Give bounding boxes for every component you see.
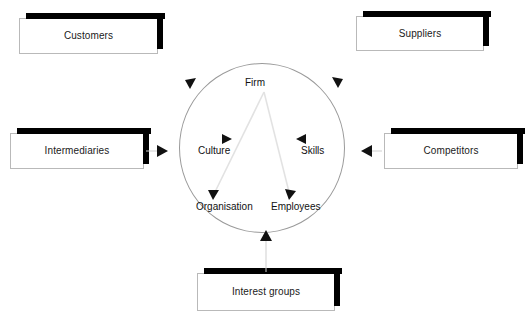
arrowhead-intermediaries-to-firm: [157, 145, 168, 157]
box-competitors-label: Competitors: [423, 146, 478, 156]
box-shadow-top: [26, 13, 165, 19]
box-shadow-right: [334, 268, 340, 306]
arrowhead-competitors-to-firm: [361, 145, 372, 157]
node-firm: Firm: [245, 78, 265, 88]
node-organisation: Organisation: [196, 202, 253, 212]
box-shadow-right: [483, 11, 489, 46]
box-shadow-top: [363, 11, 491, 17]
box-suppliers-label: Suppliers: [399, 29, 442, 39]
box-shadow-right: [143, 128, 149, 164]
box-shadow-right: [517, 128, 523, 164]
box-suppliers[interactable]: Suppliers: [356, 16, 484, 51]
node-culture: Culture: [198, 146, 230, 156]
box-customers-label: Customers: [64, 31, 113, 41]
diagram-canvas: Customers Suppliers Intermediaries Compe…: [0, 0, 529, 322]
box-shadow-top: [17, 128, 151, 134]
box-intermediaries-label: Intermediaries: [45, 146, 110, 156]
box-shadow-top: [204, 268, 342, 274]
box-intermediaries[interactable]: Intermediaries: [10, 133, 144, 169]
node-employees: Employees: [271, 202, 320, 212]
box-interest-groups-label: Interest groups: [232, 287, 300, 297]
arrowhead-customers-to-firm: [185, 78, 196, 89]
arrowhead-suppliers-to-firm: [332, 77, 343, 88]
node-skills: Skills: [301, 146, 324, 156]
box-shadow-top: [391, 128, 525, 134]
box-shadow-right: [157, 13, 163, 49]
box-interest-groups[interactable]: Interest groups: [197, 273, 335, 311]
box-customers[interactable]: Customers: [19, 18, 158, 54]
box-competitors[interactable]: Competitors: [384, 133, 518, 169]
